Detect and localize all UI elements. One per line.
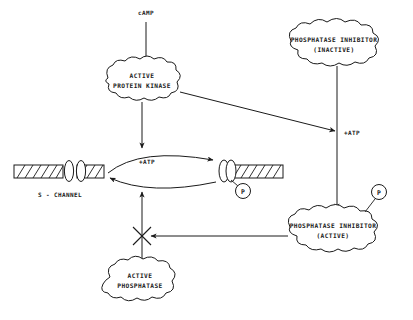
phosphate-inhibitor-label: P (377, 189, 381, 197)
phosphatase-label-line2: PHOSPHATASE (117, 282, 162, 289)
phosphate-channel-label: P (241, 188, 245, 196)
phosphate-on-channel: P (231, 180, 251, 199)
membrane-left (14, 165, 63, 178)
inhibitor-active-label-line2: (ACTIVE) (316, 232, 349, 239)
node-phosphatase-inhibitor-active: PHOSPHATASE INHIBITOR (ACTIVE) (288, 205, 377, 253)
atp-right-label: +ATP (344, 129, 360, 136)
node-active-phosphatase: ACTIVE PHOSPHATASE (102, 256, 175, 301)
camp-label: cAMP (138, 9, 154, 16)
diagram-canvas: cAMP ACTIVE PROTEIN KINASE PHOSPHATASE I… (0, 0, 413, 320)
s-channel-label: S - CHANNEL (38, 191, 82, 198)
cycle-arrow-forward (108, 156, 213, 173)
cycle-arrow-reverse (110, 178, 216, 188)
pathway-diagram: cAMP ACTIVE PROTEIN KINASE PHOSPHATASE I… (0, 0, 413, 320)
node-phosphatase-inhibitor-inactive: PHOSPHATASE INHIBITOR (INACTIVE) (289, 19, 378, 67)
s-channel-gate-left (64, 161, 73, 182)
atp-center-label: +ATP (139, 158, 155, 165)
atp-phosphorylation-cycle: +ATP (108, 156, 216, 188)
membrane-right (231, 165, 283, 178)
phosphate-on-inhibitor: P (365, 185, 387, 213)
inhibitor-inactive-label-line2: (INACTIVE) (313, 46, 354, 53)
kinase-label-line2: PROTEIN KINASE (113, 82, 171, 89)
phosphatase-label-line1: ACTIVE (128, 272, 153, 279)
s-channel-closed (219, 160, 236, 182)
s-channel-gate-right (76, 161, 85, 182)
node-active-protein-kinase: ACTIVE PROTEIN KINASE (106, 56, 181, 100)
kinase-label-line1: ACTIVE (130, 72, 155, 79)
edge-kinase-to-inhibitor-atp (180, 92, 335, 131)
inhibitor-inactive-label-line1: PHOSPHATASE INHIBITOR (291, 36, 378, 43)
inhibitor-active-label-line1: PHOSPHATASE INHIBITOR (290, 222, 377, 229)
